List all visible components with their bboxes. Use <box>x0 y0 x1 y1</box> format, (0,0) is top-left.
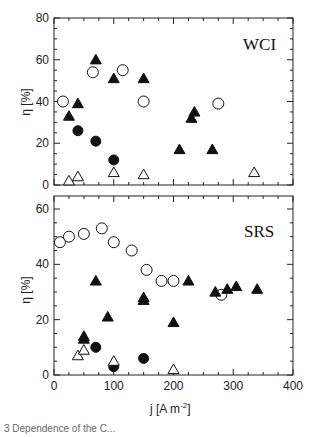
filled-circle-marker <box>91 136 101 146</box>
open-circle-marker <box>96 223 107 234</box>
filled-circle-marker <box>109 155 119 165</box>
filled-circle-marker <box>73 126 83 136</box>
y-axis-title-top: η [%] <box>19 88 33 115</box>
y-tick-label: 0 <box>42 178 49 192</box>
panel-label-top: WCI <box>243 35 276 54</box>
open-triangle-marker <box>72 171 83 181</box>
open-circle-marker <box>87 67 98 78</box>
open-circle-marker <box>138 96 149 107</box>
y-tick-label: 60 <box>36 53 50 67</box>
open-triangle-marker <box>138 169 149 179</box>
filled-triangle-marker <box>231 281 242 291</box>
open-triangle-marker <box>249 167 260 177</box>
open-circle-marker <box>78 228 89 239</box>
filled-triangle-marker <box>63 111 74 121</box>
x-tick-label: 100 <box>104 379 124 393</box>
x-axis-title: j [A m-2] <box>149 401 190 416</box>
filled-triangle-marker <box>90 275 101 285</box>
y-tick-label: 80 <box>36 11 50 25</box>
figure-caption: 3 Dependence of the C... <box>4 423 115 434</box>
filled-triangle-marker <box>189 106 200 116</box>
open-triangle-marker <box>108 356 119 366</box>
filled-triangle-marker <box>78 331 89 341</box>
filled-circle-marker <box>139 353 149 363</box>
x-tick-label: 300 <box>223 379 243 393</box>
y-tick-label: 40 <box>36 257 50 271</box>
filled-triangle-marker <box>222 284 233 294</box>
open-circle-marker <box>156 275 167 286</box>
open-triangle-marker <box>78 345 89 355</box>
y-tick-label: 20 <box>36 136 50 150</box>
open-circle-marker <box>117 65 128 76</box>
axis-ticks: 02040608001002003004000204060 <box>36 11 304 393</box>
filled-triangle-marker <box>168 317 179 327</box>
filled-triangle-marker <box>252 284 263 294</box>
open-circle-marker <box>108 237 119 248</box>
open-circle-marker <box>63 231 74 242</box>
open-circle-marker <box>141 264 152 275</box>
y-axis-title-bottom: η [%] <box>19 276 33 303</box>
chart-figure: 02040608001002003004000204060 WCI SRS η … <box>0 0 319 437</box>
x-tick-label: 200 <box>163 379 183 393</box>
open-circle-marker <box>213 98 224 109</box>
y-tick-label: 40 <box>36 95 50 109</box>
filled-triangle-marker <box>90 54 101 64</box>
y-tick-label: 0 <box>42 368 49 382</box>
filled-triangle-marker <box>72 98 83 108</box>
filled-triangle-marker <box>207 144 218 154</box>
open-circle-marker <box>168 275 179 286</box>
filled-triangle-marker <box>102 311 113 321</box>
x-tick-label: 0 <box>51 379 58 393</box>
open-triangle-marker <box>108 167 119 177</box>
open-circle-marker <box>126 245 137 256</box>
filled-triangle-marker <box>183 275 194 285</box>
filled-triangle-marker <box>174 144 185 154</box>
open-circle-marker <box>57 96 68 107</box>
panel-label-bottom: SRS <box>244 222 274 241</box>
open-triangle-marker <box>168 364 179 374</box>
filled-triangle-marker <box>108 73 119 83</box>
filled-circle-marker <box>91 342 101 352</box>
data-points <box>54 54 262 373</box>
filled-triangle-marker <box>138 73 149 83</box>
y-tick-label: 20 <box>36 313 50 327</box>
x-tick-label: 400 <box>283 379 303 393</box>
y-tick-label: 60 <box>36 202 50 216</box>
